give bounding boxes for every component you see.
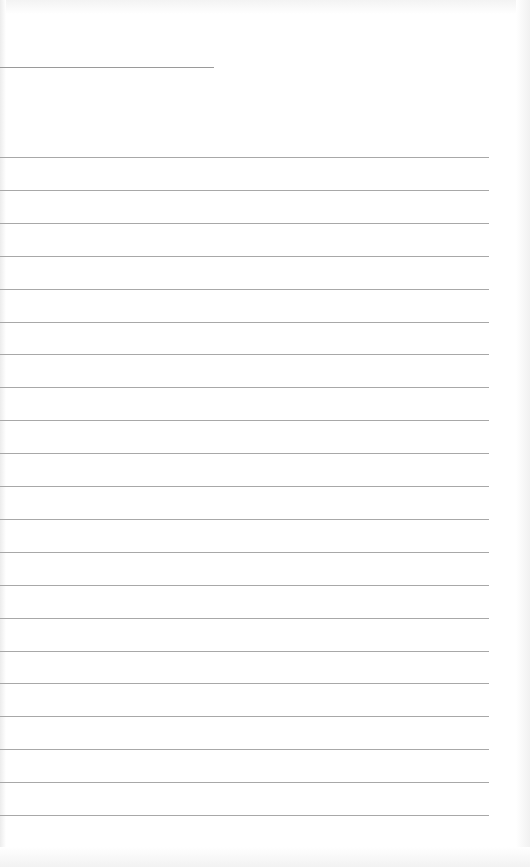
ruled-line <box>0 420 489 421</box>
ruled-line <box>0 683 489 684</box>
ruled-line <box>0 716 489 717</box>
paper-right-edge <box>516 0 530 867</box>
ruled-line <box>0 749 489 750</box>
ruled-line <box>0 519 489 520</box>
ruled-line <box>0 289 489 290</box>
ruled-line <box>0 354 489 355</box>
paper-bottom-edge <box>0 847 530 867</box>
ruled-line <box>0 322 489 323</box>
ruled-line <box>0 815 489 816</box>
ruled-line <box>0 157 489 158</box>
paper-top-edge <box>0 0 530 14</box>
ruled-line <box>0 256 489 257</box>
ruled-line <box>0 223 489 224</box>
ruled-line <box>0 387 489 388</box>
ruled-line <box>0 651 489 652</box>
ruled-line <box>0 190 489 191</box>
ruled-line <box>0 486 489 487</box>
ruled-line <box>0 552 489 553</box>
ruled-line <box>0 585 489 586</box>
ruled-line <box>0 453 489 454</box>
header-name-line <box>0 67 214 68</box>
ruled-line <box>0 618 489 619</box>
ruled-line <box>0 782 489 783</box>
paper-left-edge <box>0 0 6 867</box>
